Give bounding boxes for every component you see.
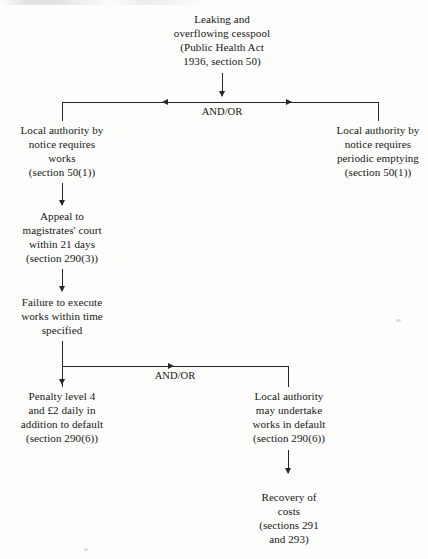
arrowhead-appeal-down bbox=[59, 200, 65, 206]
node-start: Leaking and overflowing cesspool (Public… bbox=[152, 12, 292, 68]
junction-bar-top bbox=[62, 102, 378, 103]
node-works-in-default: Local authority may undertake works in d… bbox=[227, 389, 351, 445]
node-recovery: Recovery of costs (sections 291 and 293) bbox=[227, 490, 351, 546]
scan-artifact-top bbox=[0, 0, 428, 5]
connector-lower-junction-to-works-default bbox=[288, 366, 289, 387]
junction-label-lower: AND/OR bbox=[125, 370, 225, 382]
scan-speck bbox=[84, 548, 88, 551]
node-appeal: Appeal to magistrates' court within 21 d… bbox=[0, 209, 124, 265]
arrowhead-penalty-down bbox=[59, 379, 65, 385]
arrowhead-start-down bbox=[219, 91, 225, 97]
arrowhead-junction-left bbox=[162, 99, 168, 105]
connector-junction-to-left-branch bbox=[62, 102, 63, 121]
node-penalty: Penalty level 4 and £2 daily in addition… bbox=[0, 389, 124, 445]
node-right-branch: Local authority by notice requires perio… bbox=[316, 123, 428, 179]
connector-junction-to-right-branch bbox=[378, 102, 379, 121]
junction-bar-lower bbox=[62, 366, 288, 367]
arrowhead-failure-down bbox=[59, 286, 65, 292]
node-failure: Failure to execute works within time spe… bbox=[0, 295, 124, 337]
arrowhead-junction-right bbox=[286, 99, 292, 105]
flowchart-canvas: Leaking and overflowing cesspool (Public… bbox=[0, 0, 428, 559]
scan-speck bbox=[396, 319, 401, 322]
arrowhead-lower-junction-right bbox=[168, 363, 174, 369]
arrowhead-recovery-down bbox=[285, 468, 291, 474]
junction-label-top: AND/OR bbox=[172, 106, 272, 118]
node-left-branch: Local authority by notice requires works… bbox=[0, 123, 124, 179]
